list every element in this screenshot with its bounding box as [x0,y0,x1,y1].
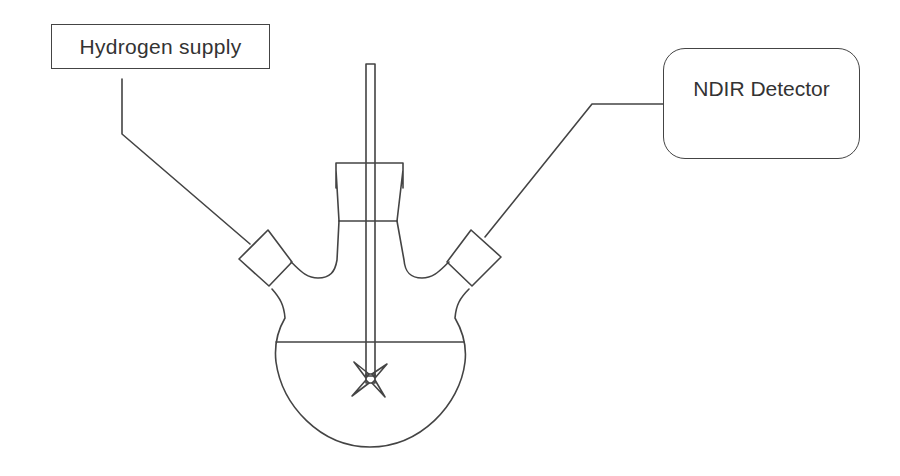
stopper [336,163,403,221]
right-septum [447,230,501,286]
stirrer-shaft [366,64,375,376]
hydrogen-supply-label: Hydrogen supply [79,35,241,59]
ndir-detector-line [485,104,663,237]
ndir-detector-label: NDIR Detector [693,77,830,101]
impeller-icon [352,362,387,397]
flask-outline [272,221,469,447]
left-septum [239,230,292,286]
hydrogen-supply-box: Hydrogen supply [51,24,270,69]
hydrogen-supply-line [122,79,250,244]
ndir-detector-box: NDIR Detector [663,48,860,159]
